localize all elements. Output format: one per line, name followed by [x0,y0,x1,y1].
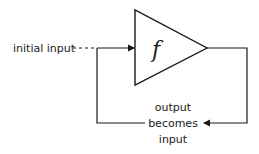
feedback-loop-diagram: initial input f output becomes input [0,0,259,154]
output-feedback-line-right [204,48,247,123]
feedback-label-line-3: input [159,133,188,146]
feedback-label-line-1: output [155,101,192,114]
function-triangle [135,10,207,85]
initial-input-label: initial input [13,42,76,55]
feedback-label-line-2: becomes [148,117,198,130]
